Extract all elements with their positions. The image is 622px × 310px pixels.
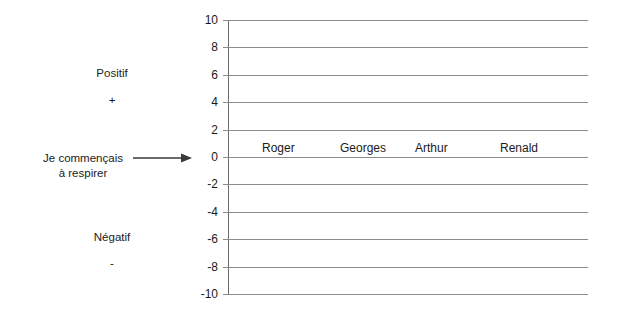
y-axis-tick	[223, 212, 228, 213]
y-axis-tick-label: -8	[172, 261, 218, 273]
category-label: Roger	[262, 142, 295, 154]
plot-area: 1086420-2-4-6-8-10 RogerGeorgesArthurRen…	[228, 20, 588, 294]
gridline	[228, 102, 588, 103]
y-axis-tick-label: 0	[172, 151, 218, 163]
y-axis-tick	[223, 294, 228, 295]
y-axis-tick-label: -10	[172, 288, 218, 300]
y-axis-tick-label: 2	[172, 124, 218, 136]
annotation-negatif: Négatif	[66, 230, 158, 244]
y-axis-tick-label: -4	[172, 206, 218, 218]
annotation-positif-sign: +	[66, 93, 158, 107]
y-axis-tick-label: -2	[172, 178, 218, 190]
gridline	[228, 294, 588, 295]
y-axis-tick-label: -6	[172, 233, 218, 245]
gridline	[228, 212, 588, 213]
y-axis-tick	[223, 75, 228, 76]
annotation-breathing-line1: Je commençais	[18, 151, 148, 166]
y-axis-tick-label: 8	[172, 41, 218, 53]
chart-page: Positif + Je commençais à respirer Négat…	[0, 0, 622, 310]
annotation-negatif-sign: -	[66, 256, 158, 270]
y-axis-tick-label: 4	[172, 96, 218, 108]
category-label: Arthur	[415, 142, 448, 154]
y-axis-tick	[223, 47, 228, 48]
annotation-breathing: Je commençais à respirer	[18, 151, 148, 181]
annotation-breathing-line2: à respirer	[18, 166, 148, 181]
gridline	[228, 130, 588, 131]
y-axis-tick	[223, 267, 228, 268]
category-label: Renald	[500, 142, 538, 154]
gridline	[228, 47, 588, 48]
y-axis-tick	[223, 184, 228, 185]
gridline	[228, 267, 588, 268]
gridline	[228, 157, 588, 158]
gridline	[228, 184, 588, 185]
y-axis-tick-label: 10	[172, 14, 218, 26]
y-axis-tick-label: 6	[172, 69, 218, 81]
annotation-positif: Positif	[66, 66, 158, 80]
y-axis-tick	[223, 239, 228, 240]
y-axis-tick-labels: 1086420-2-4-6-8-10	[172, 20, 218, 294]
y-axis-tick	[223, 157, 228, 158]
gridline	[228, 75, 588, 76]
category-label: Georges	[340, 142, 386, 154]
y-axis-tick	[223, 20, 228, 21]
y-axis-tick	[223, 102, 228, 103]
y-axis-tick	[223, 130, 228, 131]
gridline	[228, 20, 588, 21]
gridline	[228, 239, 588, 240]
